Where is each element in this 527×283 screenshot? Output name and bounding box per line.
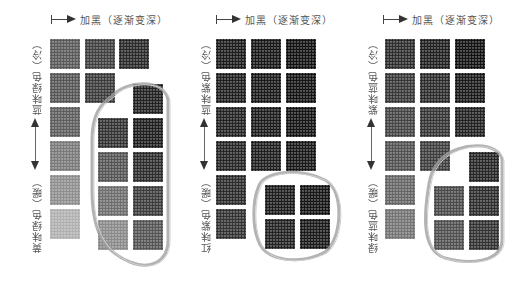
color-swatch — [385, 39, 415, 69]
side-label-cool: 紫味蓝色（冷） — [366, 38, 381, 115]
color-swatch — [385, 73, 415, 103]
right-arrow-icon — [384, 19, 400, 20]
color-swatch — [434, 220, 464, 250]
color-swatch — [420, 73, 450, 103]
color-swatch — [385, 175, 415, 205]
color-swatch — [455, 107, 485, 137]
color-swatch — [469, 152, 499, 182]
color-swatch — [455, 73, 485, 103]
vertical-axis-line — [371, 127, 372, 161]
panel-blue-chart: 加黑（逐渐变深） 紫味蓝色（冷） 绿味蓝色（暖） — [0, 0, 527, 283]
top-label: 加黑（逐渐变深） — [412, 12, 500, 27]
color-swatch — [434, 186, 464, 216]
color-swatch — [455, 39, 485, 69]
color-swatch — [469, 186, 499, 216]
down-arrow-icon — [367, 161, 375, 170]
side-label-warm: 绿味蓝色（暖） — [366, 176, 381, 253]
color-swatch — [420, 107, 450, 137]
color-swatch — [420, 39, 450, 69]
color-swatch — [385, 209, 415, 239]
color-swatch — [469, 220, 499, 250]
color-swatch — [385, 107, 415, 137]
color-swatch — [420, 141, 450, 171]
color-swatch — [385, 141, 415, 171]
up-arrow-icon — [367, 118, 375, 127]
